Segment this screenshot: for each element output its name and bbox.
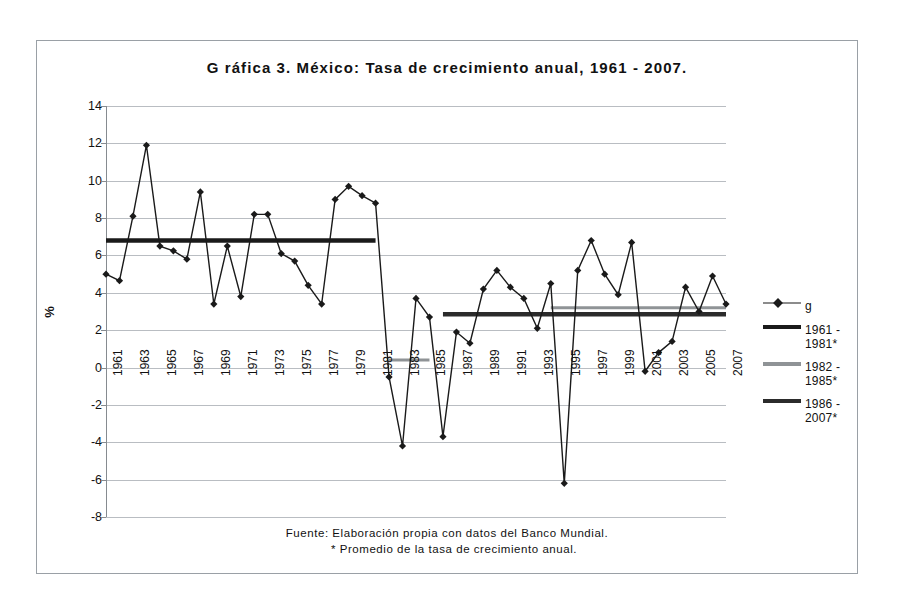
y-tick-label: 14 bbox=[42, 99, 102, 113]
x-tick-label: 1995 bbox=[569, 349, 583, 376]
x-tick-label: 2007 bbox=[731, 349, 745, 376]
x-tick-label: 1975 bbox=[300, 349, 314, 376]
y-tick-mark bbox=[101, 480, 106, 481]
y-tick-label: 0 bbox=[42, 361, 102, 375]
x-tick-label: 2005 bbox=[704, 349, 718, 376]
data-point-marker bbox=[224, 243, 231, 250]
x-tick-label: 1991 bbox=[515, 349, 529, 376]
data-point-marker bbox=[143, 142, 150, 149]
y-tick-mark bbox=[101, 143, 106, 144]
y-axis-title: % bbox=[42, 306, 57, 318]
legend-item[interactable]: 1982 - 1985* bbox=[763, 360, 855, 388]
legend-label: 1961 - 1981* bbox=[805, 323, 855, 351]
data-point-marker bbox=[102, 271, 109, 278]
x-tick-label: 1961 bbox=[111, 349, 125, 376]
x-tick-label: 1965 bbox=[165, 349, 179, 376]
data-point-marker bbox=[129, 213, 136, 220]
chart-title: G ráfica 3. México: Tasa de crecimiento … bbox=[37, 59, 857, 76]
y-tick-mark bbox=[101, 368, 106, 369]
y-tick-label: 8 bbox=[42, 211, 102, 225]
y-tick-mark bbox=[101, 255, 106, 256]
data-point-marker bbox=[156, 243, 163, 250]
data-point-marker bbox=[561, 480, 568, 487]
y-tick-label: -6 bbox=[42, 473, 102, 487]
data-point-marker bbox=[399, 442, 406, 449]
gridline bbox=[106, 517, 726, 518]
x-tick-label: 1977 bbox=[327, 349, 341, 376]
x-tick-label: 1999 bbox=[623, 349, 637, 376]
y-tick-label: -2 bbox=[42, 398, 102, 412]
x-tick-label: 1967 bbox=[192, 349, 206, 376]
legend-item[interactable]: g bbox=[763, 299, 855, 314]
x-tick-label: 2001 bbox=[650, 349, 664, 376]
y-tick-mark bbox=[101, 442, 106, 443]
x-tick-label: 2003 bbox=[677, 349, 691, 376]
y-tick-mark bbox=[101, 106, 106, 107]
data-point-marker bbox=[251, 211, 258, 218]
data-point-marker bbox=[682, 284, 689, 291]
data-point-marker bbox=[210, 300, 217, 307]
x-tick-label: 1997 bbox=[596, 349, 610, 376]
data-point-marker bbox=[574, 267, 581, 274]
plot-area: % 14121086420-2-4-6-81961196319651967196… bbox=[106, 106, 726, 517]
footnote-source: Fuente: Elaboración propia con datos del… bbox=[37, 525, 857, 541]
y-tick-label: 10 bbox=[42, 174, 102, 188]
x-tick-label: 1987 bbox=[461, 349, 475, 376]
y-tick-label: 2 bbox=[42, 323, 102, 337]
legend-label: 1982 - 1985* bbox=[805, 360, 855, 388]
footnote-asterisk: * Promedio de la tasa de crecimiento anu… bbox=[37, 541, 857, 557]
y-tick-mark bbox=[101, 293, 106, 294]
y-tick-label: 6 bbox=[42, 248, 102, 262]
x-tick-label: 1989 bbox=[488, 349, 502, 376]
data-point-marker bbox=[237, 293, 244, 300]
data-point-marker bbox=[291, 257, 298, 264]
y-tick-label: 4 bbox=[42, 286, 102, 300]
x-tick-label: 1985 bbox=[434, 349, 448, 376]
x-tick-label: 1969 bbox=[219, 349, 233, 376]
y-tick-label: 12 bbox=[42, 136, 102, 150]
y-tick-mark bbox=[101, 330, 106, 331]
x-tick-label: 1963 bbox=[138, 349, 152, 376]
data-point-marker bbox=[183, 256, 190, 263]
data-point-marker bbox=[588, 237, 595, 244]
data-point-marker bbox=[116, 277, 123, 284]
x-tick-label: 1971 bbox=[246, 349, 260, 376]
legend-diamond-marker bbox=[773, 298, 783, 308]
data-point-marker bbox=[534, 325, 541, 332]
data-point-marker bbox=[547, 280, 554, 287]
y-tick-label: -4 bbox=[42, 435, 102, 449]
legend-label: g bbox=[805, 299, 855, 313]
data-point-marker bbox=[278, 250, 285, 257]
data-point-marker bbox=[628, 239, 635, 246]
y-tick-mark bbox=[101, 517, 106, 518]
data-point-marker bbox=[439, 433, 446, 440]
data-point-marker bbox=[170, 247, 177, 254]
y-tick-mark bbox=[101, 181, 106, 182]
x-tick-label: 1973 bbox=[273, 349, 287, 376]
data-point-marker bbox=[709, 272, 716, 279]
data-point-marker bbox=[264, 211, 271, 218]
x-tick-label: 1983 bbox=[408, 349, 422, 376]
x-tick-label: 1981 bbox=[381, 349, 395, 376]
data-point-marker bbox=[372, 200, 379, 207]
legend-label: 1986 - 2007* bbox=[805, 397, 855, 425]
legend-item[interactable]: 1961 - 1981* bbox=[763, 323, 855, 351]
data-point-marker bbox=[197, 188, 204, 195]
x-tick-label: 1993 bbox=[542, 349, 556, 376]
y-tick-mark bbox=[101, 218, 106, 219]
series-layer bbox=[106, 106, 726, 517]
legend-item[interactable]: 1986 - 2007* bbox=[763, 397, 855, 425]
chart-legend: g1961 - 1981*1982 - 1985*1986 - 2007* bbox=[763, 299, 855, 434]
chart-footnote: Fuente: Elaboración propia con datos del… bbox=[37, 525, 857, 557]
chart-figure: G ráfica 3. México: Tasa de crecimiento … bbox=[36, 40, 858, 574]
data-point-marker bbox=[615, 291, 622, 298]
x-tick-label: 1979 bbox=[354, 349, 368, 376]
data-point-marker bbox=[601, 271, 608, 278]
y-tick-label: -8 bbox=[42, 510, 102, 524]
y-tick-mark bbox=[101, 405, 106, 406]
